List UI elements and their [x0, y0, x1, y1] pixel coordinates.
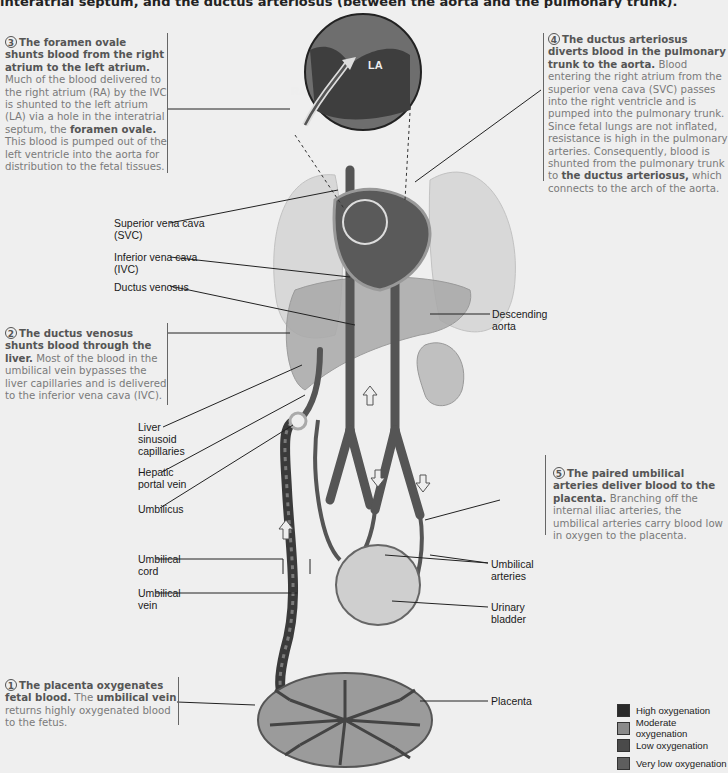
legend-label: Moderate oxygenation	[636, 717, 728, 739]
label-line: Inferior vena cava	[114, 251, 197, 263]
step-3-callout: 3The foramen ovale shunts blood from the…	[5, 36, 167, 173]
step-bold-term: the ductus arteriosus,	[561, 170, 688, 181]
callout-bar-5	[545, 455, 546, 535]
label-urinary-bladder: Urinary bladder	[491, 601, 526, 625]
step-2-callout: 2The ductus venosus shunts blood through…	[5, 327, 167, 402]
label-line: Liver	[138, 421, 185, 433]
label-line: portal vein	[138, 478, 186, 490]
label-line: Superior vena cava	[114, 217, 204, 229]
label-hepatic-portal-vein: Hepatic portal vein	[138, 466, 186, 490]
label-line: arteries	[491, 570, 534, 582]
label-line: Umbilical	[138, 587, 181, 599]
callout-bar-3	[167, 33, 168, 173]
step-number-badge: 5	[553, 467, 565, 479]
step-body: Blood entering the right atrium from the…	[548, 59, 728, 182]
label-svc: Superior vena cava (SVC)	[114, 217, 204, 241]
oxygenation-legend: High oxygenation Moderate oxygenation Lo…	[617, 702, 728, 772]
label-line: vein	[138, 599, 181, 611]
label-umbilical-vein: Umbilical vein	[138, 587, 181, 611]
label-line: sinusoid	[138, 433, 185, 445]
legend-item-low: Low oxygenation	[617, 737, 728, 755]
legend-label: Very low oxygenation	[636, 758, 727, 769]
kidney	[417, 343, 464, 406]
label-line: (SVC)	[114, 229, 204, 241]
label-placenta: Placenta	[491, 695, 532, 707]
step-bold-term: foramen ovale.	[70, 124, 156, 135]
swatch-icon	[617, 739, 630, 752]
label-line: Urinary	[491, 601, 526, 613]
step-5-callout: 5The paired umbilical arteries deliver b…	[553, 467, 723, 542]
step-body-after: returns highly oxygenated blood to the f…	[5, 705, 171, 728]
callout-bar-2	[167, 323, 168, 405]
step-number-badge: 4	[548, 33, 560, 45]
inset-label-la: LA	[368, 59, 383, 71]
step-title: The ductus arteriosus diverts blood in t…	[548, 34, 726, 70]
label-line: Hepatic	[138, 466, 186, 478]
label-line: cord	[138, 565, 181, 577]
step-number-badge: 2	[5, 327, 17, 339]
label-line: Umbilical	[491, 558, 534, 570]
step-number-badge: 3	[5, 36, 17, 48]
label-line: (IVC)	[114, 263, 197, 275]
step-number-badge: 1	[5, 679, 17, 691]
label-liver-sinusoid-capillaries: Liver sinusoid capillaries	[138, 421, 185, 457]
label-umbilicus: Umbilicus	[138, 503, 184, 515]
legend-label: High oxygenation	[636, 705, 710, 716]
label-umbilical-cord: Umbilical cord	[138, 553, 181, 577]
inset-label-ra: RA	[291, 85, 307, 97]
swatch-icon	[617, 722, 630, 735]
swatch-icon	[617, 757, 630, 770]
callout-bar-1	[178, 677, 179, 725]
swatch-icon	[617, 704, 630, 717]
legend-label: Low oxygenation	[636, 740, 708, 751]
label-line: Descending	[492, 308, 547, 320]
label-line: bladder	[491, 613, 526, 625]
label-ductus-venosus: Ductus venosus	[114, 281, 189, 293]
step-body-after: This blood is pumped out of the left ven…	[5, 136, 167, 172]
label-line: capillaries	[138, 445, 185, 457]
step-title: The foramen ovale shunts blood from the …	[5, 37, 164, 73]
legend-item-moderate: Moderate oxygenation	[617, 720, 728, 738]
step-1-callout: 1The placenta oxygenates fetal blood. Th…	[5, 679, 177, 730]
step-bold-term: umbilical vein	[97, 692, 177, 703]
step-4-callout: 4The ductus arteriosus diverts blood in …	[548, 33, 728, 195]
label-ivc: Inferior vena cava (IVC)	[114, 251, 197, 275]
umbilicus-ring	[290, 413, 306, 429]
label-line: Umbilical	[138, 553, 181, 565]
label-umbilical-arteries: Umbilical arteries	[491, 558, 534, 582]
label-line: aorta	[492, 320, 547, 332]
step-body: The	[74, 692, 93, 703]
legend-item-very-low: Very low oxygenation	[617, 755, 728, 773]
label-descending-aorta: Descending aorta	[492, 308, 547, 332]
callout-bar-4	[543, 33, 544, 181]
